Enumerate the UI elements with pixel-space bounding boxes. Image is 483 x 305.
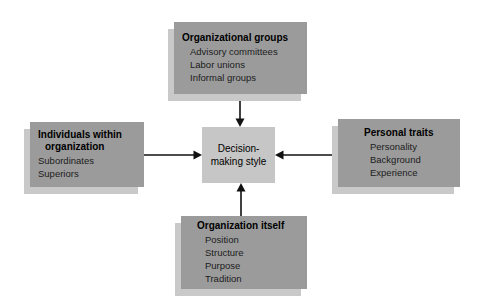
box-title-line2: organization bbox=[45, 141, 144, 153]
center-title-line2: making style bbox=[202, 155, 275, 168]
list-item: Experience bbox=[370, 166, 460, 179]
box-title: Personal traits bbox=[364, 127, 460, 139]
box-organization-itself: Organization itself Position Structure P… bbox=[181, 216, 307, 289]
center-title-line1: Decision- bbox=[202, 142, 275, 155]
box-title: Organizational groups bbox=[182, 32, 307, 44]
arrow-from-bottom-icon bbox=[237, 183, 246, 216]
list-item: Structure bbox=[205, 246, 307, 259]
box-individuals-within-organization: Individuals within organization Subordin… bbox=[30, 122, 144, 187]
list-item: Personality bbox=[370, 140, 460, 153]
list-item: Labor unions bbox=[190, 58, 307, 71]
arrow-from-left-icon bbox=[144, 151, 202, 160]
list-item: Superiors bbox=[38, 167, 144, 180]
list-item: Background bbox=[370, 153, 460, 166]
arrow-from-right-icon bbox=[275, 151, 338, 160]
box-organizational-groups: Organizational groups Advisory committee… bbox=[174, 22, 307, 94]
list-item: Position bbox=[205, 233, 307, 246]
arrow-from-top-icon bbox=[236, 94, 245, 127]
list-item: Informal groups bbox=[190, 71, 307, 84]
diagram-canvas: Organizational groups Advisory committee… bbox=[0, 0, 483, 305]
list-item: Advisory committees bbox=[190, 45, 307, 58]
box-title-line1: Individuals within bbox=[38, 129, 144, 141]
list-item: Purpose bbox=[205, 259, 307, 272]
box-personal-traits: Personal traits Personality Background E… bbox=[338, 119, 460, 187]
box-title: Individuals within organization bbox=[38, 129, 144, 153]
box-item-list: Personality Background Experience bbox=[370, 140, 460, 179]
box-title: Organization itself bbox=[197, 220, 307, 232]
box-item-list: Subordinates Superiors bbox=[38, 154, 144, 180]
box-item-list: Advisory committees Labor unions Informa… bbox=[190, 45, 307, 84]
list-item: Tradition bbox=[205, 272, 307, 285]
box-decision-making-style: Decision- making style bbox=[202, 127, 275, 183]
box-item-list: Position Structure Purpose Tradition bbox=[205, 233, 307, 285]
list-item: Subordinates bbox=[38, 154, 144, 167]
